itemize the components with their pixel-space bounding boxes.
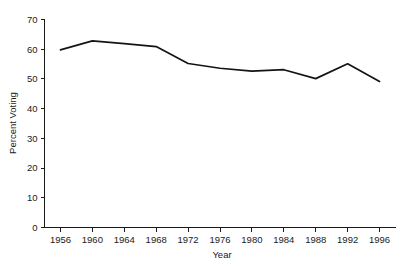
- y-tick-label: 10: [27, 192, 38, 203]
- x-tick-label: 1972: [178, 234, 199, 245]
- x-tick-label: 1964: [114, 234, 135, 245]
- x-tick-label: 1980: [241, 234, 262, 245]
- x-tick-label: 1956: [50, 234, 71, 245]
- line-chart-plot: 010203040506070 195619601964196819721976…: [0, 0, 407, 266]
- x-tick-label: 1968: [146, 234, 167, 245]
- y-axis-title: Percent Voting: [7, 92, 18, 154]
- x-axis-title: Year: [212, 249, 231, 260]
- x-axis-tick-labels: 1956196019641968197219761980198419881992…: [50, 234, 390, 245]
- x-axis-ticks: [60, 228, 379, 232]
- x-tick-label: 1960: [82, 234, 103, 245]
- y-tick-label: 50: [27, 73, 38, 84]
- data-series-line: [60, 41, 379, 82]
- chart-figure: 010203040506070 195619601964196819721976…: [0, 0, 407, 266]
- y-tick-label: 70: [27, 14, 38, 25]
- chart-axes: [45, 19, 396, 228]
- y-axis-tick-labels: 010203040506070: [27, 14, 38, 233]
- x-tick-label: 1976: [209, 234, 230, 245]
- x-tick-label: 1992: [337, 234, 358, 245]
- y-tick-label: 0: [32, 222, 37, 233]
- x-tick-label: 1984: [273, 234, 294, 245]
- y-axis-ticks: [41, 20, 45, 228]
- y-tick-label: 40: [27, 103, 38, 114]
- x-tick-label: 1988: [305, 234, 326, 245]
- y-tick-label: 20: [27, 162, 38, 173]
- y-tick-label: 30: [27, 133, 38, 144]
- y-tick-label: 60: [27, 44, 38, 55]
- x-tick-label: 1996: [369, 234, 390, 245]
